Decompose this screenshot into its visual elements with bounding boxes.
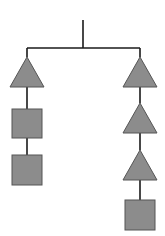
left-square-3: [12, 155, 42, 185]
left-square-2: [12, 109, 42, 138]
right-triangle-2: [123, 103, 157, 133]
mobile-diagram: [0, 0, 165, 236]
left-triangle-1: [10, 57, 44, 87]
right-square-4: [125, 200, 155, 230]
right-triangle-3: [123, 150, 157, 180]
right-triangle-1: [123, 57, 157, 87]
